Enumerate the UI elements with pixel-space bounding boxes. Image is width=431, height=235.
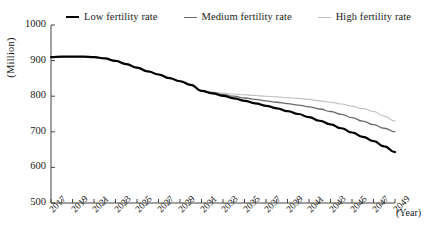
fertility-projection-chart: Low fertility rate Medium fertility rate… (0, 0, 431, 235)
series-line-medium (51, 57, 395, 132)
plot-area (0, 0, 431, 235)
series-line-high (51, 57, 395, 121)
